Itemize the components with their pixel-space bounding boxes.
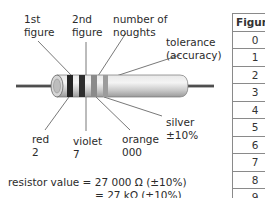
formula-line-1: resistor value = 27 000 Ω (±10%): [8, 176, 187, 189]
label-number-of-noughts: number of noughts: [113, 13, 167, 39]
resistor-body: [57, 75, 188, 97]
table-row: 5: [233, 119, 266, 137]
label-first-figure: 1st figure: [24, 13, 54, 39]
table-row: 8: [233, 171, 266, 189]
band-red: [67, 75, 73, 97]
table-row: 1: [233, 49, 266, 67]
label-red: red 2: [32, 133, 49, 159]
label-violet: violet 7: [73, 135, 102, 161]
left-lead-wire: [16, 85, 56, 88]
label-second-figure: 2nd figure: [72, 13, 102, 39]
table-header-figure: Figure: [233, 14, 266, 32]
formula-line-2: = 27 kΩ (±10%): [95, 189, 182, 198]
table-row: 6: [233, 136, 266, 154]
band-orange: [91, 75, 97, 97]
table-row: 0: [233, 31, 266, 49]
table-row: 3: [233, 84, 266, 102]
label-silver: silver ±10%: [166, 116, 198, 142]
table-row: 2: [233, 66, 266, 84]
table-row: 4: [233, 101, 266, 119]
label-orange: orange 000: [122, 133, 159, 159]
figure-table: Figure 0 1 2 3 4 5 6 7 8 9: [232, 13, 265, 198]
table-row: 9: [233, 189, 266, 199]
band-violet: [79, 75, 85, 97]
band-silver: [103, 75, 108, 97]
label-tolerance: tolerance (accuracy): [166, 36, 222, 62]
table-row: 7: [233, 154, 266, 172]
